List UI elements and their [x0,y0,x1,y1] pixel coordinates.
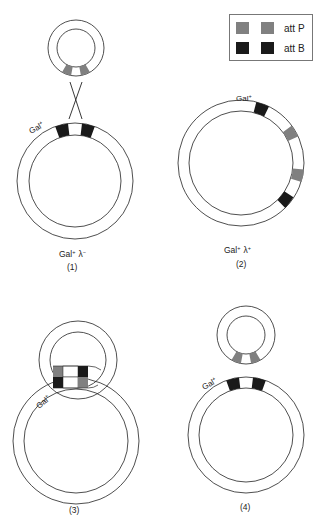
attP-right-block [291,168,304,182]
bacterial-chromosome-1 [17,123,133,239]
panel-3: Gal+ (3) [13,321,139,515]
integration-diagram: Gal+ Gal+λ− (1) Gal+ Gal+λ+ (2) [0,0,318,529]
legend-item-attB: att B [236,42,305,54]
attB-block [78,366,88,377]
panel-number-2: (2) [236,259,247,269]
phage-lambda-circle-excised [217,306,275,364]
genotype-label-1: Gal+λ− [59,249,86,259]
panel-4: Gal+ (4) [188,306,304,512]
panel-number-1: (1) [67,262,78,272]
bacterial-chromosome-2-integrated [178,100,304,226]
attP-swatch [236,22,274,34]
attB-right-block [278,191,294,208]
attP-block [53,366,63,377]
legend: att P att B [229,14,313,61]
legend-item-attP: att P [236,22,305,34]
gal-label-4: Gal+ [200,375,219,391]
attB-left-block [254,102,269,117]
attB-block [53,377,63,388]
gal-label-3: Gal+ [34,393,52,411]
crossover-lines [69,82,82,119]
panel-1: Gal+ Gal+λ− (1) [17,20,133,272]
panel-number-4: (4) [240,502,251,512]
bacterial-chromosome-4 [188,377,304,493]
attB-swatch [236,42,274,54]
attP-left-block [283,126,298,141]
gal-label-2: Gal+ [236,93,252,103]
attP-block [78,377,88,388]
phage-lambda-circle [48,20,104,76]
panel-2: Gal+ Gal+λ+ (2) [178,93,304,269]
gal-label-1: Gal+ [27,119,46,135]
legend-label-attB: att B [284,43,305,54]
genotype-label-2: Gal+λ+ [224,245,251,255]
panel-number-3: (3) [69,505,80,515]
legend-label-attP: att P [284,23,305,34]
